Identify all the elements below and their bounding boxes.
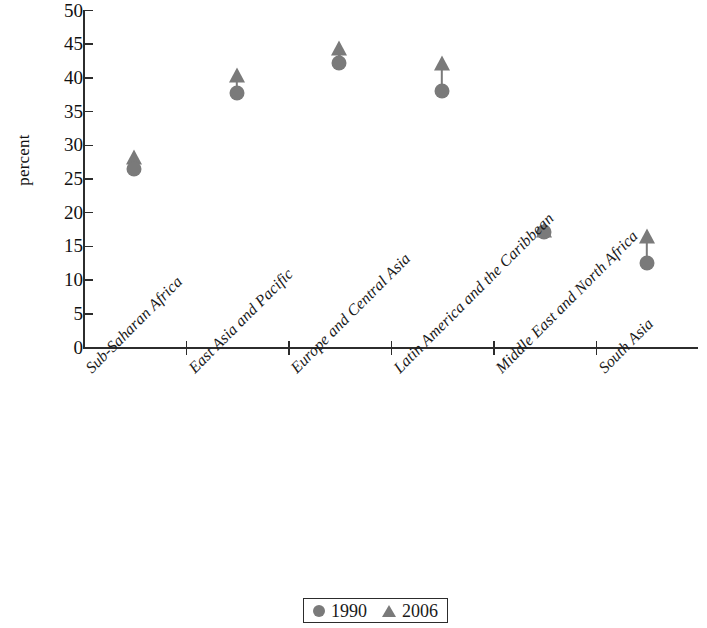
chart-container: percent 50454035302520151050 Sub-Saharan… (0, 0, 707, 628)
x-axis-tick-mark (288, 341, 290, 355)
y-axis-tick-labels: 50454035302520151050 (40, 0, 83, 360)
y-axis-tick-label: 5 (49, 304, 83, 323)
x-axis-tick-mark (493, 341, 495, 355)
x-axis-label: Sub-Saharan Africa (82, 273, 186, 377)
data-point-2006 (434, 56, 450, 71)
data-point-1990 (434, 84, 449, 99)
y-axis-tick-label: 10 (49, 270, 83, 289)
data-point-1990 (127, 161, 142, 176)
x-axis-tick-mark (391, 341, 393, 355)
legend-entry: 2006 (382, 602, 438, 620)
y-axis-tick-mark (84, 347, 93, 349)
chart-legend: 19902006 (303, 598, 448, 623)
y-axis-tick-mark (84, 43, 93, 45)
y-axis-tick-label: 25 (49, 169, 83, 188)
y-axis-tick-label: 50 (49, 1, 83, 20)
y-axis-tick-mark (84, 246, 93, 248)
y-axis-tick-label: 0 (49, 338, 83, 357)
y-axis-tick-mark (84, 111, 93, 113)
y-axis-tick-mark (84, 212, 93, 214)
y-axis-tick-mark (84, 313, 93, 315)
x-axis-label: Latin America and the Caribbean (390, 209, 557, 376)
y-axis-tick-mark (84, 77, 93, 79)
y-axis-tick-label: 40 (49, 68, 83, 87)
y-axis-tick-mark (84, 10, 93, 12)
data-point-1990 (229, 85, 244, 100)
data-point-2006 (331, 40, 347, 55)
legend-entry: 1990 (313, 602, 367, 620)
data-point-2006 (639, 229, 655, 244)
y-axis-tick-label: 45 (49, 34, 83, 53)
legend-circle-icon (313, 605, 325, 617)
y-axis-tick-label: 15 (49, 236, 83, 255)
legend-label: 2006 (402, 602, 438, 620)
legend-label: 1990 (331, 602, 367, 620)
x-axis-tick-mark (186, 341, 188, 355)
x-axis-label: East Asia and Pacific (185, 265, 297, 377)
y-axis-tick-mark (84, 279, 93, 281)
data-point-1990 (332, 56, 347, 71)
y-axis-title: percent (14, 100, 34, 220)
y-axis-tick-mark (84, 145, 93, 147)
legend-triangle-icon (382, 605, 396, 617)
x-axis-tick-mark (596, 341, 598, 355)
data-point-1990 (639, 256, 654, 271)
y-axis-tick-label: 35 (49, 102, 83, 121)
data-point-2006 (229, 67, 245, 82)
y-axis-tick-label: 20 (49, 203, 83, 222)
y-axis-tick-label: 30 (49, 135, 83, 154)
y-axis-tick-mark (84, 178, 93, 180)
x-axis-label: South Asia (595, 315, 657, 377)
